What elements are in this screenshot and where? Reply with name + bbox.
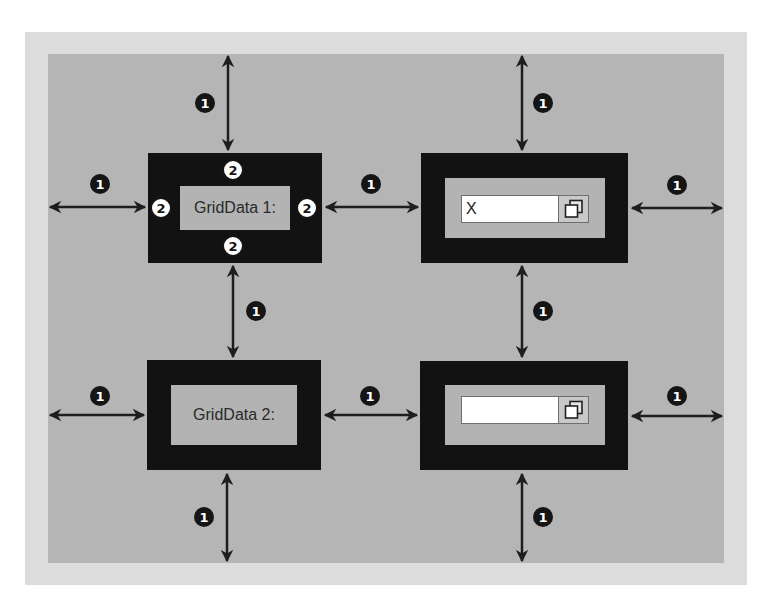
margin-badge-row2-right: 1 — [667, 386, 687, 406]
grid-cell-r2c1: GridData 2: — [147, 360, 321, 470]
padding-badge-top: 2 — [222, 159, 244, 181]
text-field-1 — [461, 195, 589, 223]
margin-badge-middle-right: 1 — [533, 301, 553, 321]
margin-badge-row1-right: 1 — [667, 175, 687, 195]
padding-badge-left: 2 — [150, 197, 172, 219]
griddata-1-label: GridData 1: — [194, 199, 276, 217]
text-input-1[interactable] — [462, 196, 558, 222]
margin-badge-row2-middle: 1 — [360, 386, 380, 406]
griddata-2-label: GridData 2: — [193, 406, 275, 424]
cell-content-r2c1: GridData 2: — [171, 385, 297, 445]
margin-badge-row1-middle: 1 — [361, 174, 381, 194]
copy-button-1[interactable] — [558, 196, 588, 222]
margin-badge-middle-left: 1 — [246, 301, 266, 321]
cell-content-r1c1: GridData 1: — [180, 186, 290, 230]
margin-badge-top-right: 1 — [533, 93, 553, 113]
margin-badge-row2-left: 1 — [90, 386, 110, 406]
margin-badge-top-left: 1 — [195, 93, 215, 113]
copy-button-2[interactable] — [558, 397, 588, 423]
margin-badge-bottom-right: 1 — [533, 507, 553, 527]
copy-icon — [563, 400, 585, 420]
margin-badge-bottom-left: 1 — [194, 507, 214, 527]
padding-badge-bottom: 2 — [222, 235, 244, 257]
padding-badge-right: 2 — [296, 197, 318, 219]
margin-arrows — [0, 0, 770, 602]
margin-badge-row1-left: 1 — [90, 174, 110, 194]
text-input-2[interactable] — [462, 397, 558, 423]
text-field-2 — [461, 396, 589, 424]
copy-icon — [563, 199, 585, 219]
